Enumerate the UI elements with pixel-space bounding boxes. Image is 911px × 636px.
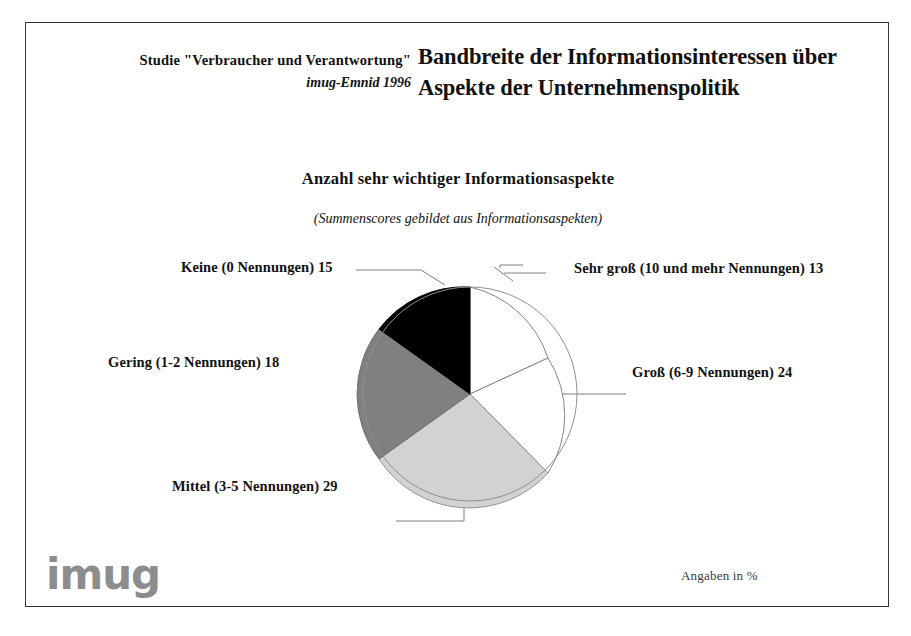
pie-label-gross: Groß (6-9 Nennungen) 24 xyxy=(632,364,792,381)
pie-label-mittel: Mittel (3-5 Nennungen) 29 xyxy=(172,478,338,495)
unit-note: Angaben in % xyxy=(681,568,758,584)
pie-slices xyxy=(357,287,565,508)
pie-label-keine: Keine (0 Nennungen) 15 xyxy=(181,259,333,276)
imug-logo: imug xyxy=(46,551,160,599)
pie-label-gering: Gering (1-2 Nennungen) 18 xyxy=(108,354,279,371)
pie-chart-svg xyxy=(26,23,890,608)
pie-label-sehr-gross: Sehr groß (10 und mehr Nennungen) 13 xyxy=(574,260,823,277)
pie-chart: Keine (0 Nennungen) 15 Sehr groß (10 und… xyxy=(26,23,890,608)
document-frame: Studie "Verbraucher und Verantwortung" i… xyxy=(25,22,889,607)
leader-line-keine xyxy=(356,270,445,285)
